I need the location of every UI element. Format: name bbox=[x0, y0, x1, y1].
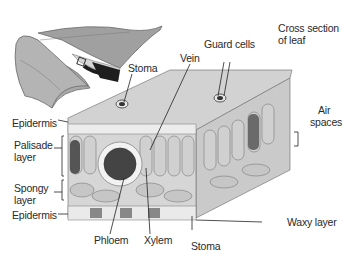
label-stoma-top: Stoma bbox=[128, 62, 157, 74]
label-palisade-line2: layer bbox=[14, 151, 36, 163]
label-vein: Vein bbox=[180, 52, 200, 64]
label-spongy-line1: Spongy bbox=[14, 182, 48, 194]
diagram-title-line2: of leaf bbox=[278, 34, 305, 46]
label-epidermis-top: Epidermis bbox=[12, 117, 57, 129]
label-palisade-line1: Palisade bbox=[14, 139, 53, 151]
label-guard-cells: Guard cells bbox=[204, 38, 255, 50]
label-spongy-line2: layer bbox=[14, 194, 36, 206]
leaf-block bbox=[68, 70, 292, 220]
label-xylem: Xylem bbox=[144, 234, 172, 246]
label-air-line1: Air bbox=[318, 104, 330, 116]
diagram-title-line1: Cross section bbox=[278, 22, 339, 34]
label-phloem: Phloem bbox=[94, 234, 128, 246]
label-waxy-layer: Waxy layer bbox=[287, 216, 337, 228]
label-air-line2: spaces bbox=[310, 116, 342, 128]
label-epidermis-bottom: Epidermis bbox=[12, 209, 57, 221]
label-stoma-bottom: Stoma bbox=[191, 240, 220, 252]
